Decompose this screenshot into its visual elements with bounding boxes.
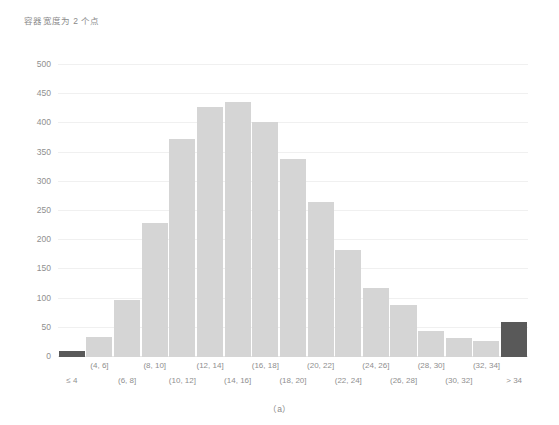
histogram-bar (501, 322, 527, 357)
x-axis-tick-label: (10, 12] (169, 376, 196, 385)
bar-slot (307, 65, 335, 357)
y-axis-tick-label: 0 (46, 351, 51, 361)
histogram-figure: 容器宽度为 2 个点 05010015020025030035040045050… (0, 0, 559, 425)
bar-slot (58, 65, 86, 357)
x-axis-tick-label: (30, 32] (445, 376, 472, 385)
y-axis-tick-label: 200 (37, 234, 51, 244)
x-axis-tick-label: > 34 (506, 376, 522, 385)
y-axis-tick-label: 500 (37, 59, 51, 69)
x-axis-tick-label: (24, 26] (362, 361, 389, 370)
x-axis-tick-label: (16, 18] (252, 361, 279, 370)
x-axis-label-slot: (14, 16] (224, 360, 252, 394)
bar-slot (113, 65, 141, 357)
y-axis-tick-label: 350 (37, 147, 51, 157)
x-axis-label-slot: (18, 20] (279, 360, 307, 394)
histogram-bar (418, 331, 444, 357)
x-axis-label-slot: (16, 18] (252, 360, 280, 394)
x-axis-label-slot: (26, 28] (390, 360, 418, 394)
histogram-bar (335, 250, 361, 357)
bar-series (58, 65, 528, 357)
histogram-bar (86, 337, 112, 357)
bar-slot (390, 65, 418, 357)
bar-slot (251, 65, 279, 357)
bar-slot (500, 65, 528, 357)
x-axis-label-slot: (4, 6] (86, 360, 114, 394)
bar-slot (141, 65, 169, 357)
bar-slot (445, 65, 473, 357)
bar-slot (473, 65, 501, 357)
x-axis-label-slot: (12, 14] (196, 360, 224, 394)
x-axis-label-slot: (6, 8] (113, 360, 141, 394)
figure-caption: （a） (0, 402, 559, 414)
histogram-bar (473, 341, 499, 357)
x-axis-label-slot: (24, 26] (362, 360, 390, 394)
x-axis-label-slot: (28, 30] (417, 360, 445, 394)
histogram-bar (280, 159, 306, 357)
x-axis-label-slot: (8, 10] (141, 360, 169, 394)
bar-slot (334, 65, 362, 357)
histogram-bar (308, 202, 334, 357)
histogram-bar (169, 139, 195, 357)
histogram-bar (225, 102, 251, 357)
x-axis-tick-label: (4, 6] (90, 361, 108, 370)
chart-title: 容器宽度为 2 个点 (24, 14, 99, 26)
y-axis-tick-label: 450 (37, 88, 51, 98)
histogram-bar (363, 288, 389, 357)
x-axis-label-slot: (30, 32] (445, 360, 473, 394)
bar-slot (86, 65, 114, 357)
x-axis-tick-label: (22, 24] (335, 376, 362, 385)
histogram-bar (142, 223, 168, 357)
histogram-bar (252, 122, 278, 357)
x-axis-tick-label: (32, 34] (473, 361, 500, 370)
y-axis-tick-label: 150 (37, 263, 51, 273)
y-axis-tick-label: 250 (37, 205, 51, 215)
bar-slot (224, 65, 252, 357)
histogram-bar (59, 351, 85, 357)
x-axis-tick-label: ≤ 4 (66, 376, 77, 385)
x-axis-tick-label: (14, 16] (224, 376, 251, 385)
x-axis-tick-label: (18, 20] (279, 376, 306, 385)
x-axis-tick-label: (20, 22] (307, 361, 334, 370)
bar-slot (362, 65, 390, 357)
x-axis-tick-label: (12, 14] (196, 361, 223, 370)
bar-slot (196, 65, 224, 357)
bar-slot (417, 65, 445, 357)
x-axis-label-slot: (22, 24] (334, 360, 362, 394)
histogram-bar (446, 338, 472, 357)
x-axis-label-slot: (32, 34] (473, 360, 501, 394)
y-axis-tick-label: 100 (37, 293, 51, 303)
y-axis-tick-label: 400 (37, 117, 51, 127)
x-axis-label-slot: (20, 22] (307, 360, 335, 394)
histogram-bar (197, 107, 223, 357)
x-axis-tick-label: (6, 8] (118, 376, 136, 385)
bar-slot (169, 65, 197, 357)
histogram-bar (114, 300, 140, 357)
histogram-bar (390, 305, 416, 357)
bar-slot (279, 65, 307, 357)
x-axis-label-slot: (10, 12] (169, 360, 197, 394)
y-axis-tick-label: 50 (42, 322, 51, 332)
plot-area: 050100150200250300350400450500 (58, 65, 528, 357)
x-axis-tick-label: (28, 30] (418, 361, 445, 370)
x-axis-tick-label: (26, 28] (390, 376, 417, 385)
x-axis-label-slot: ≤ 4 (58, 360, 86, 394)
y-axis-tick-label: 300 (37, 176, 51, 186)
x-axis-label-slot: > 34 (500, 360, 528, 394)
x-axis-tick-label: (8, 10] (143, 361, 166, 370)
x-axis-labels: ≤ 4(4, 6](6, 8](8, 10](10, 12](12, 14](1… (58, 360, 528, 394)
